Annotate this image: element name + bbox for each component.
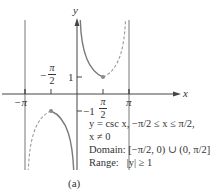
tick-label-num: π [49,63,54,73]
tick-label-den: 2 [50,76,55,86]
x-axis-arrow-icon [173,92,181,97]
caption-range: Range: |y| ≥ 1 [89,156,210,169]
tick-label-y-one: 1 [68,72,74,83]
panel-label: (a) [68,178,80,189]
point-neg-pi-half-neg-one [49,109,53,113]
curve-dashed-negative [28,111,51,170]
x-axis-label: x [183,88,188,99]
curve-solid-positive [80,20,103,77]
tick-label-neg-pi: −π [14,97,27,108]
y-axis-arrow-icon [75,18,80,26]
caption-domain: Domain: [−π/2, 0) ∪ (0, π/2] [89,143,210,156]
tick-label-neg-pi-half: π 2 [48,63,56,86]
caption-equation: y = csc x, −π/2 ≤ x ≤ π/2, [89,117,210,130]
tick-label-pi: π [126,97,132,108]
curve-solid-negative [51,111,74,170]
point-pi-half-one [101,75,105,79]
y-axis-label: y [73,5,78,16]
tick-label-y-neg-one: −1 [83,106,95,117]
caption-block: y = csc x, −π/2 ≤ x ≤ π/2, x ≠ 0 Domain:… [89,117,210,169]
tick-label-num: π [100,97,105,107]
tick-label-neg-pi-half-sign: − [40,70,46,81]
caption-restriction: x ≠ 0 [89,130,210,143]
curve-dashed-positive [103,20,126,77]
